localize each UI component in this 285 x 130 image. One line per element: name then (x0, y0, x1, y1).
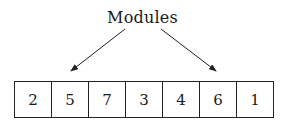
arrow-right (161, 29, 216, 71)
array-cell: 5 (52, 82, 89, 117)
array-cell: 1 (237, 82, 274, 117)
array-cell: 2 (15, 82, 52, 117)
array-cell: 6 (200, 82, 237, 117)
arrow-left (71, 29, 125, 71)
array-cell: 4 (163, 82, 200, 117)
array: 2 5 7 3 4 6 1 (14, 81, 274, 118)
array-cell: 7 (89, 82, 126, 117)
array-cell: 3 (126, 82, 163, 117)
